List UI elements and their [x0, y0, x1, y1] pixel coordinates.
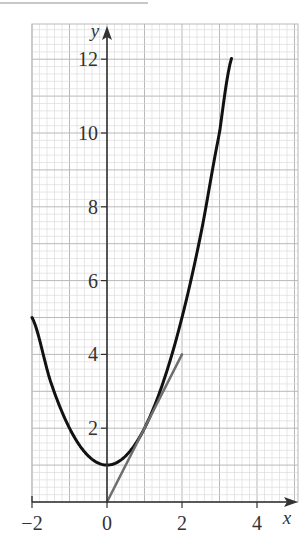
- y-tick-label: 12: [78, 48, 98, 70]
- x-axis-label: x: [282, 507, 292, 528]
- y-tick-label: 8: [88, 196, 98, 218]
- x-tick-label: 0: [102, 512, 112, 534]
- y-tick-label: 4: [88, 343, 98, 365]
- y-axis-label: y: [89, 20, 100, 41]
- x-tick-label: 4: [252, 512, 262, 534]
- x-tick-label: 2: [177, 512, 187, 534]
- chart: −202424681012xy: [0, 0, 307, 540]
- y-tick-label: 6: [88, 270, 98, 292]
- y-tick-label: 10: [78, 122, 98, 144]
- y-tick-label: 2: [88, 417, 98, 439]
- x-tick-label: −2: [21, 512, 42, 534]
